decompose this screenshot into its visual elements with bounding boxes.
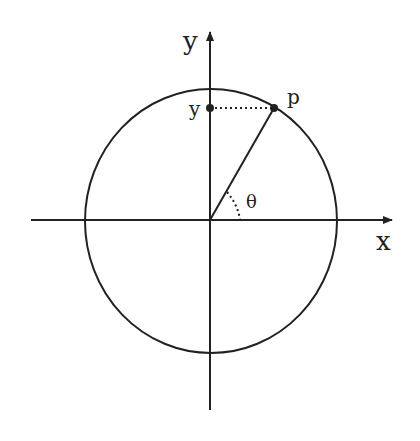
point-p-dot: [270, 104, 278, 112]
y-axis-label: y: [182, 26, 198, 56]
point-p-label: p: [287, 85, 300, 109]
x-axis-label: x: [376, 226, 391, 256]
y-value-label: y: [188, 97, 201, 121]
y-marker-dot: [206, 104, 214, 112]
radius-line: [210, 108, 274, 220]
angle-theta-label: θ: [246, 191, 257, 212]
angle-arc: [227, 192, 240, 220]
unit-circle-diagram: y x y p θ: [0, 0, 420, 441]
